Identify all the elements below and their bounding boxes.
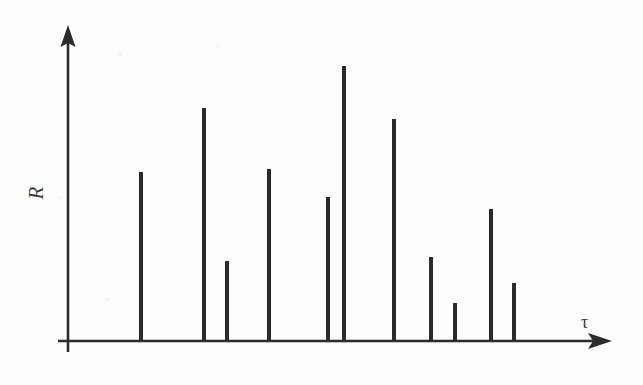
- y-axis-label: R: [19, 179, 53, 207]
- impulse-bar: [139, 172, 143, 341]
- impulse-bar: [342, 66, 346, 341]
- impulse-bar: [392, 119, 396, 341]
- impulse-bar: [429, 257, 433, 341]
- plot-canvas: [0, 0, 643, 385]
- impulse-bar: [512, 283, 516, 341]
- impulse-bar: [225, 261, 229, 341]
- impulse-bar: [453, 303, 457, 341]
- x-axis-label: τ: [581, 312, 588, 333]
- impulse-bar: [326, 197, 330, 341]
- impulse-bar: [267, 169, 271, 341]
- impulse-bar: [202, 108, 206, 341]
- impulse-stem-group: [139, 66, 516, 341]
- impulse-response-figure: R τ: [0, 0, 643, 385]
- impulse-bar: [489, 209, 493, 341]
- y-axis: [61, 25, 76, 352]
